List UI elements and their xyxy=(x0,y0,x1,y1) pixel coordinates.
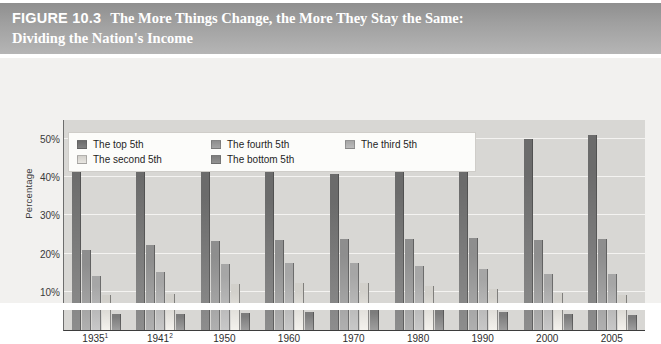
x-tick-footnote-marker: 2 xyxy=(169,332,173,339)
bar xyxy=(524,139,533,330)
bar xyxy=(82,250,91,330)
legend-label: The top 5th xyxy=(93,139,144,150)
figure-header-band: FIGURE 10.3The More Things Change, the M… xyxy=(0,3,661,54)
chart-area: Percentage 10%20%30%40%50% 1935119412195… xyxy=(0,58,661,303)
legend-label: The third 5th xyxy=(361,139,417,150)
y-tick-label: 20% xyxy=(22,248,60,259)
bar xyxy=(350,263,359,330)
legend-swatch-fourth-5th xyxy=(211,140,221,149)
figure-header-line-2: Dividing the Nation's Income xyxy=(12,28,651,48)
bar xyxy=(588,135,597,330)
bar xyxy=(211,241,220,330)
bar xyxy=(405,239,414,330)
x-tick-label: 1960 xyxy=(257,333,322,344)
bar xyxy=(534,240,543,330)
bar xyxy=(221,264,230,330)
legend-item: The bottom 5th xyxy=(211,154,345,165)
bar xyxy=(275,240,284,330)
bar-group xyxy=(581,120,646,330)
y-axis-tick-labels: 10%20%30%40%50% xyxy=(22,116,60,331)
figure-number-label: FIGURE 10.3 xyxy=(12,10,101,26)
bar xyxy=(618,295,627,331)
bar xyxy=(479,269,488,330)
x-axis-tick-labels: 19351194121950196019701980199020002005 xyxy=(63,333,644,344)
bar xyxy=(370,309,379,330)
x-tick-label: 1950 xyxy=(192,333,257,344)
x-tick-label: 1970 xyxy=(321,333,386,344)
x-tick-label: 2000 xyxy=(515,333,580,344)
bar xyxy=(146,245,155,330)
x-tick-label: 2005 xyxy=(580,333,645,344)
legend-label: The bottom 5th xyxy=(227,154,294,165)
bar xyxy=(156,272,165,330)
legend-label: The fourth 5th xyxy=(227,139,289,150)
bar xyxy=(305,312,314,330)
x-tick-label: 19351 xyxy=(63,333,128,344)
legend-item: The third 5th xyxy=(345,139,465,150)
y-tick-label: 10% xyxy=(22,286,60,297)
bar xyxy=(628,315,637,330)
legend-item: The top 5th xyxy=(77,139,211,150)
figure-title: The More Things Change, the More They St… xyxy=(110,10,463,26)
bar xyxy=(241,313,250,330)
bar xyxy=(435,310,444,330)
bottom-spacer xyxy=(0,303,661,310)
bar xyxy=(544,274,553,331)
bar xyxy=(102,295,111,330)
legend-label: The second 5th xyxy=(93,154,162,165)
x-tick-label: 19412 xyxy=(128,333,193,344)
y-tick-label: 30% xyxy=(22,210,60,221)
legend-swatch-bottom-5th xyxy=(211,155,221,164)
bar xyxy=(598,239,607,330)
legend-swatch-third-5th xyxy=(345,140,355,149)
legend-swatch-top-5th xyxy=(77,140,87,149)
x-tick-label: 1980 xyxy=(386,333,451,344)
bar xyxy=(285,263,294,330)
bar xyxy=(499,312,508,330)
y-tick-label: 50% xyxy=(22,134,60,145)
bar-group xyxy=(516,120,581,330)
bar xyxy=(554,293,563,330)
bar xyxy=(166,294,175,330)
figure-subtitle: Dividing the Nation's Income xyxy=(12,30,193,46)
bar xyxy=(415,266,424,330)
bar xyxy=(469,238,478,330)
y-tick-label: 40% xyxy=(22,172,60,183)
bar xyxy=(564,314,573,330)
bar xyxy=(340,239,349,330)
x-tick-footnote-marker: 1 xyxy=(105,332,109,339)
x-tick-label: 1990 xyxy=(450,333,515,344)
legend-item: The fourth 5th xyxy=(211,139,345,150)
legend-item: The second 5th xyxy=(77,154,211,165)
figure-header-line-1: FIGURE 10.3The More Things Change, the M… xyxy=(12,8,651,28)
chart-legend: The top 5thThe fourth 5thThe third 5thTh… xyxy=(68,132,476,172)
bar xyxy=(112,314,121,330)
bar xyxy=(176,314,185,330)
legend-swatch-second-5th xyxy=(77,155,87,164)
